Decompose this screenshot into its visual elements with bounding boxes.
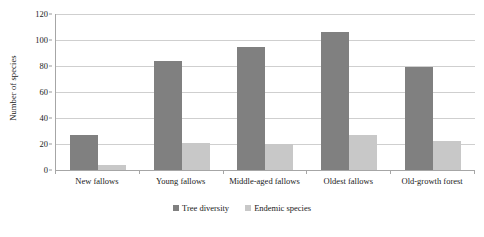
bar — [70, 135, 98, 170]
y-axis-tick-mark — [49, 118, 52, 119]
y-axis-tick-mark — [49, 66, 52, 67]
y-axis-tick-label: 0 — [44, 166, 48, 175]
bar-groups — [56, 14, 475, 170]
y-axis-tick-labels: 020406080100120 — [22, 14, 52, 170]
plot-area — [55, 14, 475, 171]
bar-group — [307, 14, 391, 170]
bar-group — [224, 14, 308, 170]
bar — [433, 141, 461, 170]
bar — [154, 61, 182, 170]
x-axis-category-label: Oldest fallows — [306, 177, 390, 186]
y-axis-title-text: Number of species — [8, 55, 18, 120]
x-axis-tick-mark — [474, 170, 475, 174]
y-axis-tick-label: 120 — [35, 10, 48, 19]
x-axis-tick-mark — [306, 170, 307, 174]
bar-group — [140, 14, 224, 170]
legend-swatch-icon — [245, 205, 251, 211]
bar — [321, 32, 349, 170]
legend-item[interactable]: Endemic species — [245, 203, 311, 213]
y-axis-tick-label: 20 — [40, 140, 49, 149]
y-axis-tick-label: 40 — [40, 114, 49, 123]
x-axis-category-label: Old-growth forest — [390, 177, 474, 186]
y-axis-tick-label: 80 — [40, 62, 49, 71]
y-axis-tick-label: 100 — [35, 36, 48, 45]
y-axis-tick-mark — [49, 170, 52, 171]
bar-group — [56, 14, 140, 170]
bar-chart: Number of species 020406080100120 New fa… — [0, 0, 484, 237]
bar — [405, 67, 433, 170]
bar — [182, 143, 210, 170]
bar — [237, 47, 265, 171]
y-axis-tick-mark — [49, 40, 52, 41]
x-axis-tick-mark — [223, 170, 224, 174]
x-axis-tick-mark — [55, 170, 56, 174]
y-axis-tick-label: 60 — [40, 88, 49, 97]
x-axis-category-label: New fallows — [55, 177, 139, 186]
x-axis-category-label: Young fallows — [139, 177, 223, 186]
bar — [265, 144, 293, 170]
x-axis-category-label: Middle-aged fallows — [223, 177, 307, 186]
y-axis-title: Number of species — [4, 0, 22, 175]
x-axis-tick-mark — [390, 170, 391, 174]
y-axis-tick-mark — [49, 144, 52, 145]
bar — [349, 135, 377, 170]
y-axis-tick-mark — [49, 92, 52, 93]
chart-legend: Tree diversityEndemic species — [0, 203, 484, 213]
x-axis-ticks — [55, 170, 474, 175]
x-axis-category-labels: New fallowsYoung fallowsMiddle-aged fall… — [55, 177, 474, 186]
legend-label: Endemic species — [254, 203, 311, 213]
legend-label: Tree diversity — [182, 203, 229, 213]
x-axis-tick-mark — [139, 170, 140, 174]
y-axis-tick-mark — [49, 14, 52, 15]
legend-item[interactable]: Tree diversity — [173, 203, 229, 213]
bar-group — [391, 14, 475, 170]
legend-swatch-icon — [173, 205, 179, 211]
